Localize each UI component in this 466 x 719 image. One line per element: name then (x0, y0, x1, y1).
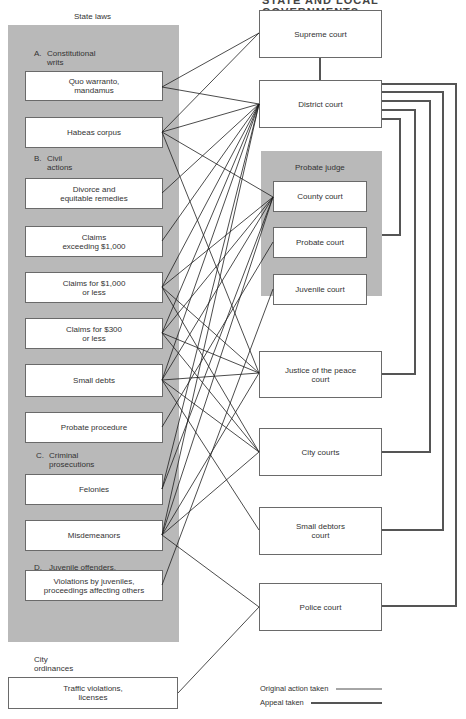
legend-original-label: Original action taken (260, 684, 328, 693)
original-action-lines (162, 33, 273, 693)
legend-appeal-label: Appeal taken (260, 698, 304, 707)
connection-lines (0, 0, 466, 719)
appeal-lines (320, 58, 456, 606)
